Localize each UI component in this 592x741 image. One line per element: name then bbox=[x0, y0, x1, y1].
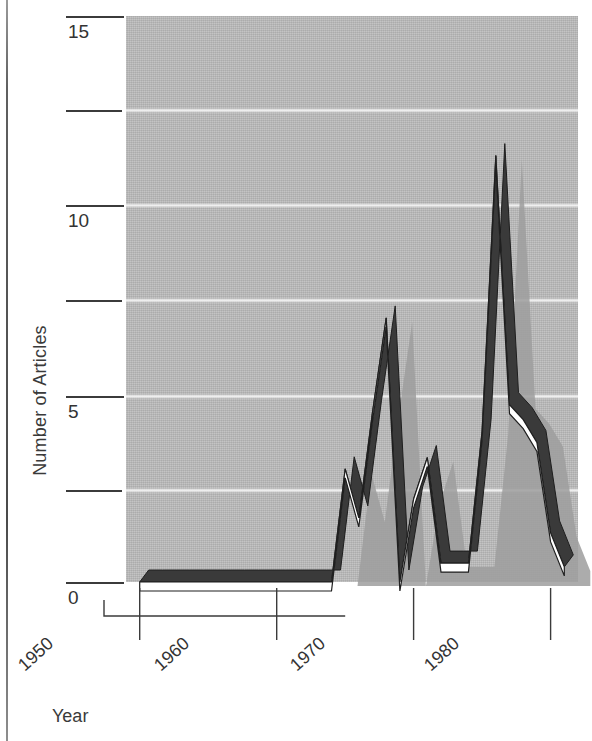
x-axis-tick-marks bbox=[104, 588, 551, 640]
figure-chart-number-of-articles-by-year: 15 10 5 0 Number of Articles Year 1950 1… bbox=[0, 0, 592, 741]
chart-vector-layer bbox=[0, 0, 592, 741]
